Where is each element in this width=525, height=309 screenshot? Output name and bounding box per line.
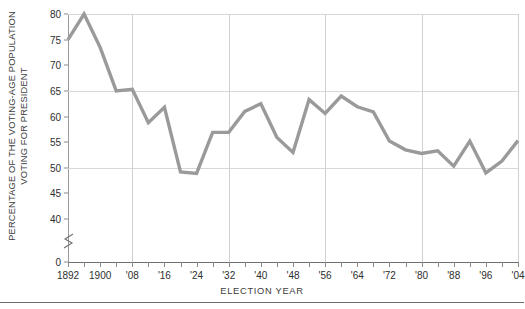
x-tick-mark (502, 262, 503, 267)
x-tick-mark (325, 262, 326, 267)
x-tick-label: 1900 (89, 270, 111, 281)
x-tick-mark (164, 262, 165, 267)
x-tick-mark (213, 262, 214, 267)
y-tick-label: 65 (50, 85, 61, 96)
x-tick-label: 1892 (57, 270, 79, 281)
y-tick-label: 50 (50, 162, 61, 173)
y-tick-label: 45 (50, 188, 61, 199)
bottom-divider (0, 302, 524, 303)
x-axis-title: ELECTION YEAR (0, 286, 524, 296)
x-tick-mark (389, 262, 390, 267)
x-tick-label: '40 (254, 270, 267, 281)
x-tick-mark (406, 262, 407, 267)
x-tick-mark (357, 262, 358, 267)
x-tick-label: '08 (126, 270, 139, 281)
x-tick-mark (518, 262, 519, 267)
x-tick-mark (373, 262, 374, 267)
x-tick-mark (245, 262, 246, 267)
x-tick-mark (116, 262, 117, 267)
x-tick-mark (100, 262, 101, 267)
y-tick-label: 60 (50, 111, 61, 122)
x-tick-label: '24 (190, 270, 203, 281)
gridline-vertical (518, 14, 519, 262)
x-tick-mark (422, 262, 423, 267)
x-tick-label: '56 (319, 270, 332, 281)
x-tick-mark (229, 262, 230, 267)
x-tick-label: '96 (479, 270, 492, 281)
y-axis-title-line-2: VOTING FOR PRESIDENT (19, 1, 31, 251)
x-tick-label: '80 (415, 270, 428, 281)
y-tick-label: 0 (55, 257, 61, 268)
x-tick-mark (454, 262, 455, 267)
x-tick-mark (181, 262, 182, 267)
y-axis-title-line-1: PERCENTAGE OF THE VOTING-AGE POPULATION (7, 1, 19, 251)
x-tick-label: '04 (511, 270, 524, 281)
x-tick-label: '16 (158, 270, 171, 281)
x-tick-mark (309, 262, 310, 267)
x-tick-mark (148, 262, 149, 267)
x-tick-mark (470, 262, 471, 267)
x-tick-mark (293, 262, 294, 267)
turnout-polyline (68, 14, 518, 173)
x-tick-mark (197, 262, 198, 267)
x-tick-label: '88 (447, 270, 460, 281)
x-tick-label: '32 (222, 270, 235, 281)
x-tick-mark (132, 262, 133, 267)
y-axis-title: PERCENTAGE OF THE VOTING-AGE POPULATION … (7, 1, 47, 251)
x-tick-label: '48 (286, 270, 299, 281)
x-tick-mark (486, 262, 487, 267)
x-tick-mark (68, 262, 69, 267)
y-tick-label: 75 (50, 34, 61, 45)
turnout-line-series (68, 14, 518, 262)
plot-area: 8075706560555045400 18921900'08'16'24'32… (68, 14, 518, 262)
x-tick-label: '72 (383, 270, 396, 281)
x-tick-mark (261, 262, 262, 267)
x-tick-mark (277, 262, 278, 267)
y-tick-label: 70 (50, 60, 61, 71)
y-tick-label: 40 (50, 214, 61, 225)
y-tick-label: 55 (50, 137, 61, 148)
x-tick-label: '64 (351, 270, 364, 281)
y-tick-label: 80 (50, 9, 61, 20)
x-tick-mark (438, 262, 439, 267)
x-tick-mark (341, 262, 342, 267)
x-tick-mark (84, 262, 85, 267)
